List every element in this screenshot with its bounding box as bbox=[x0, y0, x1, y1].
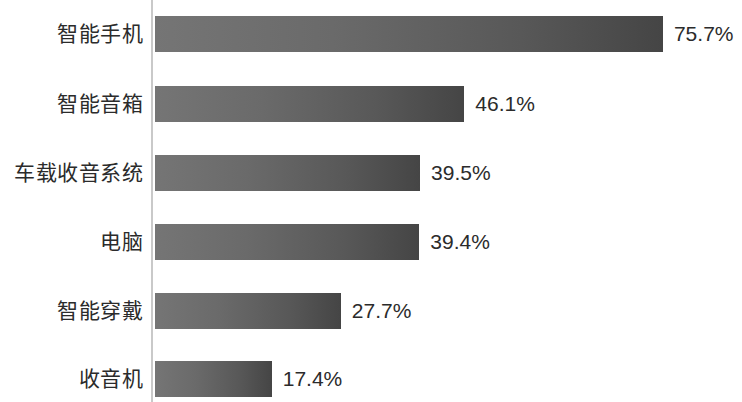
bar-value-label: 39.4% bbox=[419, 224, 490, 260]
bar-fill[interactable] bbox=[155, 293, 341, 329]
bar-track bbox=[155, 16, 663, 52]
category-label: 收音机 bbox=[0, 361, 143, 397]
bar-value-label: 17.4% bbox=[272, 361, 343, 397]
bar-row: 车载收音系统 39.5% bbox=[0, 155, 742, 191]
category-label: 车载收音系统 bbox=[0, 155, 143, 191]
bar-row: 电脑 39.4% bbox=[0, 224, 742, 260]
bar-track bbox=[155, 293, 341, 329]
bar-fill[interactable] bbox=[155, 224, 419, 260]
bar-fill[interactable] bbox=[155, 86, 464, 122]
category-label: 电脑 bbox=[0, 224, 143, 260]
bar-fill[interactable] bbox=[155, 361, 272, 397]
bar-value-label: 75.7% bbox=[663, 16, 734, 52]
bar-fill[interactable] bbox=[155, 16, 663, 52]
horizontal-bar-chart: 智能手机 75.7% 智能音箱 46.1% 车载收音系统 39.5% 电脑 39… bbox=[0, 0, 742, 402]
bar-fill[interactable] bbox=[155, 155, 420, 191]
bar-row: 智能手机 75.7% bbox=[0, 16, 742, 52]
category-label: 智能手机 bbox=[0, 16, 143, 52]
bar-track bbox=[155, 361, 272, 397]
bar-value-label: 27.7% bbox=[341, 293, 412, 329]
bar-value-label: 46.1% bbox=[464, 86, 535, 122]
category-label: 智能音箱 bbox=[0, 86, 143, 122]
bar-track bbox=[155, 224, 419, 260]
bar-track bbox=[155, 155, 420, 191]
bar-row: 智能音箱 46.1% bbox=[0, 86, 742, 122]
bar-row: 收音机 17.4% bbox=[0, 361, 742, 397]
category-label: 智能穿戴 bbox=[0, 293, 143, 329]
bar-value-label: 39.5% bbox=[420, 155, 491, 191]
category-axis-line bbox=[151, 0, 153, 402]
bar-track bbox=[155, 86, 464, 122]
bar-row: 智能穿戴 27.7% bbox=[0, 293, 742, 329]
